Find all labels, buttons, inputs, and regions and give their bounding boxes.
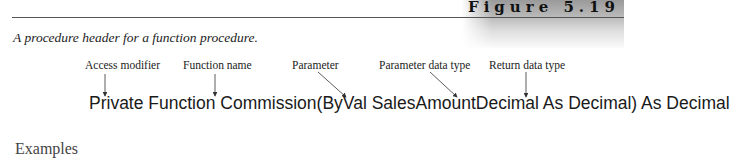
section-heading-examples: Examples xyxy=(15,140,78,158)
procedure-header-code: Private Function Commission(ByVal SalesA… xyxy=(89,93,730,114)
